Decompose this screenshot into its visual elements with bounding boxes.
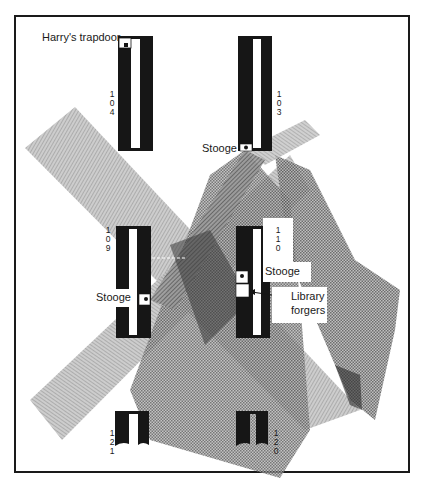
stack-number-103: 103 [275, 90, 283, 117]
stack-104 [118, 36, 153, 151]
label-stooge-110: Stooge [265, 265, 300, 277]
stack-109 [113, 226, 151, 338]
stack-number-110: 110 [274, 226, 282, 253]
label-harrys-trapdoor: Harry's trapdoor [42, 31, 121, 43]
forgers-marker [236, 284, 249, 297]
stack-number-104: 104 [108, 90, 116, 117]
stack-103 [238, 36, 272, 151]
label-library-forgers-line1: Library [291, 290, 325, 302]
label-stooge-109: Stooge [96, 291, 131, 303]
label-stooge-103: Stooge [202, 142, 237, 154]
stack-number-121: 121 [108, 429, 116, 456]
stack-number-109: 109 [104, 226, 112, 253]
library-floor-plan: Harry's trapdoor Stooge Stooge Stooge Li… [0, 0, 423, 485]
floor-plan-canvas [0, 0, 423, 485]
label-library-forgers-line2: forgers [291, 304, 325, 316]
stack-number-120: 120 [272, 429, 280, 456]
